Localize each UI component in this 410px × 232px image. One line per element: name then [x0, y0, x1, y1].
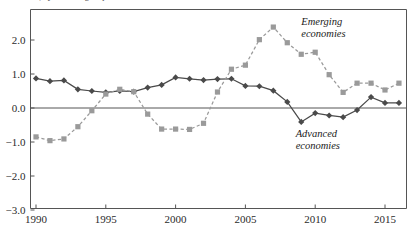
- data-point-marker: [341, 90, 346, 95]
- data-point-marker: [173, 74, 179, 80]
- data-point-marker: [368, 81, 373, 86]
- data-point-marker: [242, 83, 248, 89]
- data-point-marker: [33, 134, 38, 139]
- axis-group: [31, 10, 407, 209]
- data-point-marker: [382, 100, 388, 106]
- data-point-marker: [117, 87, 122, 92]
- series-advanced: [33, 74, 402, 125]
- series-emerging: [33, 24, 401, 143]
- data-point-marker: [33, 75, 39, 81]
- data-point-marker: [299, 52, 304, 57]
- x-tick-label: 1990: [25, 213, 48, 225]
- data-point-marker: [243, 63, 248, 68]
- data-point-marker: [256, 83, 262, 89]
- data-point-marker: [214, 76, 220, 82]
- data-point-marker: [159, 126, 164, 131]
- data-point-marker: [340, 114, 346, 120]
- data-point-marker: [313, 50, 318, 55]
- data-point-marker: [173, 126, 178, 131]
- data-point-marker: [159, 82, 165, 88]
- data-point-marker: [75, 86, 81, 92]
- data-point-marker: [228, 76, 234, 82]
- data-point-marker: [285, 40, 290, 45]
- data-point-marker: [215, 89, 220, 94]
- x-tick-label: 2005: [234, 213, 257, 225]
- series-annotation-line1: Advanced: [295, 128, 338, 139]
- series-annotation: Advancedeconomies: [295, 128, 340, 151]
- x-tick-label: 2000: [165, 213, 188, 225]
- x-tick-label: 2010: [304, 213, 327, 225]
- chart-plot-area: 2.01.00.0−1.0−2.0−3.01990199520002005201…: [0, 0, 410, 232]
- data-point-marker: [312, 110, 318, 116]
- y-tick-label: 0.0: [12, 102, 26, 114]
- series-line: [36, 77, 399, 122]
- y-tick-label: 1.0: [12, 68, 26, 80]
- data-point-marker: [47, 78, 53, 84]
- data-point-marker: [354, 81, 359, 86]
- series-line: [36, 27, 399, 141]
- data-point-marker: [47, 138, 52, 143]
- data-point-marker: [89, 108, 94, 113]
- chart-container: countries, by income group 2.01.00.0−1.0…: [0, 0, 410, 232]
- data-point-marker: [396, 100, 402, 106]
- y-tick-label: −3.0: [6, 204, 26, 216]
- data-point-marker: [61, 77, 67, 83]
- data-point-marker: [131, 89, 136, 94]
- data-point-marker: [327, 72, 332, 77]
- data-point-marker: [396, 81, 401, 86]
- data-point-marker: [75, 124, 80, 129]
- series-annotation-line2: economies: [301, 28, 345, 39]
- data-point-marker: [89, 88, 95, 94]
- x-tick-group: 199019952000200520102015: [25, 205, 397, 225]
- series-annotation-line1: Emerging: [300, 16, 342, 27]
- data-point-marker: [201, 121, 206, 126]
- series-annotation: Emergingeconomies: [300, 16, 345, 39]
- data-point-marker: [271, 24, 276, 29]
- data-point-marker: [61, 136, 66, 141]
- x-tick-label: 1995: [95, 213, 118, 225]
- data-point-marker: [229, 67, 234, 72]
- data-point-marker: [103, 91, 108, 96]
- data-point-marker: [145, 85, 151, 91]
- y-tick-label: −2.0: [6, 170, 26, 182]
- data-point-marker: [257, 37, 262, 42]
- data-point-marker: [145, 112, 150, 117]
- series-annotation-line2: economies: [296, 140, 340, 151]
- data-point-marker: [200, 77, 206, 83]
- data-point-marker: [326, 112, 332, 118]
- clipped-chart-title: countries, by income group: [4, 0, 108, 1]
- y-tick-label: −1.0: [6, 136, 26, 148]
- data-point-marker: [382, 87, 387, 92]
- data-point-marker: [186, 76, 192, 82]
- data-point-marker: [187, 127, 192, 132]
- x-tick-label: 2015: [374, 213, 397, 225]
- y-tick-label: 2.0: [12, 34, 26, 46]
